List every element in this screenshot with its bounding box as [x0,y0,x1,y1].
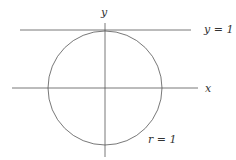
x-axis-label: x [205,83,211,94]
tangent-line-label: y = 1 [204,24,233,35]
radius-label: r = 1 [148,134,176,145]
y-axis-label: y [101,7,107,18]
diagram-canvas [0,0,236,160]
